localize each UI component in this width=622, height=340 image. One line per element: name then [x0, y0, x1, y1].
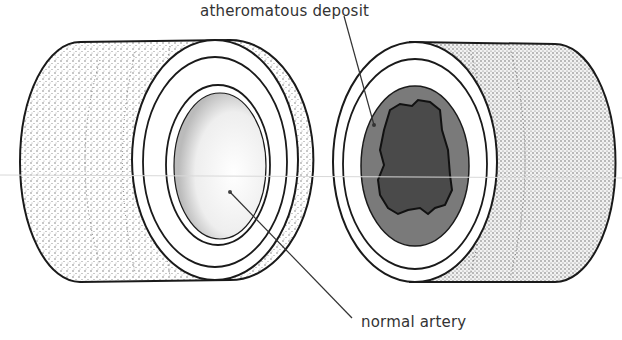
diseased-artery-cylinder — [333, 42, 616, 282]
normal-artery-cylinder — [20, 40, 313, 282]
atheromatous-plaque — [378, 100, 452, 214]
artery-illustration — [0, 0, 622, 340]
artery-diagram: atheromatous deposit normal artery — [0, 0, 622, 340]
normal-artery-label: normal artery — [361, 313, 466, 331]
atheromatous-deposit-label: atheromatous deposit — [200, 2, 369, 20]
